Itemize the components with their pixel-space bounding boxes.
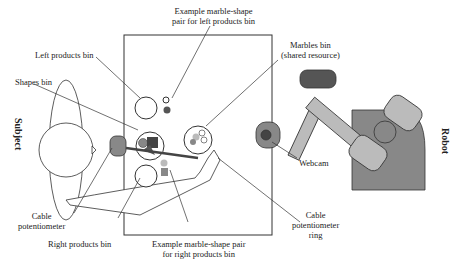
label-subject: Subject bbox=[13, 118, 24, 150]
diagram-graphics bbox=[0, 0, 463, 271]
label-cable-pot-ring: Cablepotentiometerring bbox=[292, 210, 339, 240]
label-cable-potentiometer: Cablepotentiometer bbox=[18, 211, 65, 231]
marbles-bin bbox=[184, 126, 212, 154]
right-products-bin bbox=[135, 165, 157, 187]
label-webcam: Webcam bbox=[299, 158, 329, 168]
label-robot: Robot bbox=[440, 128, 451, 154]
left-products-bin bbox=[135, 97, 157, 119]
robot-figure bbox=[256, 70, 425, 190]
label-right-products-bin: Right products bin bbox=[48, 239, 111, 249]
label-left-products-bin: Left products bin bbox=[35, 50, 94, 60]
cable-potentiometer bbox=[110, 136, 126, 156]
label-example-right: Example marble-shape pairfor right produ… bbox=[152, 239, 245, 259]
experiment-setup-diagram: Example marble-shapepair for left produc… bbox=[0, 0, 463, 271]
label-shapes-bin: Shapes bin bbox=[15, 77, 52, 87]
label-example-left: Example marble-shapepair for left produc… bbox=[172, 6, 255, 26]
label-marbles-bin: Marbles bin(shared resource) bbox=[281, 40, 340, 60]
